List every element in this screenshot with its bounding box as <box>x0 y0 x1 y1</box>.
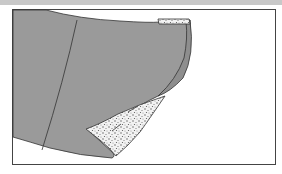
fabric-illustration <box>0 0 282 174</box>
interfacing-top <box>158 19 190 24</box>
